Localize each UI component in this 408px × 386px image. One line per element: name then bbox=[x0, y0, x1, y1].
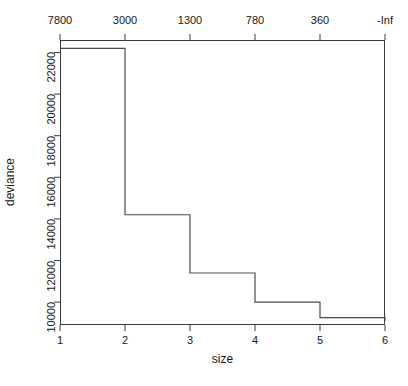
x-axis-ticks bbox=[60, 325, 385, 331]
x-tick-label-2: 2 bbox=[122, 334, 128, 346]
top-tick-label-780: 780 bbox=[246, 14, 264, 26]
top-axis-ticks bbox=[60, 34, 385, 40]
x-tick-label-1: 1 bbox=[57, 334, 63, 346]
top-tick-label-360: 360 bbox=[311, 14, 329, 26]
x-tick-label-5: 5 bbox=[317, 334, 323, 346]
chart-figure: 780030001300780360-Inf 123456 1000012000… bbox=[0, 0, 408, 386]
y-tick-label-22000: 22000 bbox=[45, 52, 57, 83]
x-tick-label-6: 6 bbox=[382, 334, 388, 346]
y-tick-label-18000: 18000 bbox=[45, 136, 57, 167]
top-tick-label--Inf: -Inf bbox=[377, 14, 393, 26]
plot-canvas bbox=[0, 0, 408, 386]
y-axis-title: deviance bbox=[3, 158, 17, 206]
y-tick-label-14000: 14000 bbox=[45, 219, 57, 250]
deviance-step-line bbox=[60, 48, 385, 321]
top-tick-label-3000: 3000 bbox=[113, 14, 137, 26]
x-tick-label-3: 3 bbox=[187, 334, 193, 346]
x-tick-label-4: 4 bbox=[252, 334, 258, 346]
x-axis-title: size bbox=[60, 352, 385, 366]
top-tick-label-1300: 1300 bbox=[178, 14, 202, 26]
y-tick-label-20000: 20000 bbox=[45, 94, 57, 125]
y-tick-label-12000: 12000 bbox=[45, 261, 57, 292]
y-tick-label-16000: 16000 bbox=[45, 177, 57, 208]
top-tick-label-7800: 7800 bbox=[48, 14, 72, 26]
y-tick-label-10000: 10000 bbox=[45, 302, 57, 333]
